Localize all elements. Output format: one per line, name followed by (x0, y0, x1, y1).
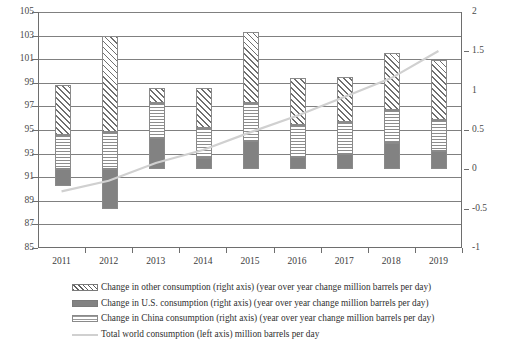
bar-segment-other (290, 78, 306, 125)
y-axis-right-tick-label: -1 (472, 243, 506, 253)
y-axis-left-tick-label: 85 (4, 243, 34, 253)
bar-segment-other (384, 53, 400, 110)
bar-segment-us (196, 158, 212, 170)
y-axis-left-tick-label: 95 (4, 125, 34, 135)
bar-segment-other (196, 88, 212, 128)
x-axis-tick-label: 2011 (37, 256, 87, 267)
bar-segment-other (102, 36, 118, 133)
y-axis-left-tick-label: 105 (4, 7, 34, 17)
x-axis-tick-label: 2013 (131, 256, 181, 267)
plot-area (38, 12, 462, 248)
bar-segment-other (149, 88, 165, 103)
gridline (39, 224, 461, 225)
bar-segment-china (290, 125, 306, 156)
y-axis-left-tick-mark (32, 59, 38, 60)
y-axis-left-tick-mark (32, 248, 38, 249)
y-axis-left-tick-label: 89 (4, 196, 34, 206)
bar-segment-us (243, 141, 259, 169)
bar-segment-china (243, 103, 259, 141)
y-axis-left-tick-mark (32, 154, 38, 155)
line-swatch (72, 331, 98, 338)
y-axis-right-tick-mark (464, 209, 469, 210)
legend-item-label: Change in U.S. consumption (right axis) … (101, 298, 429, 309)
y-axis-left-tick-mark (32, 106, 38, 107)
bar-segment-china (102, 132, 118, 169)
y-axis-right-tick-mark (464, 51, 469, 52)
bar-segment-china (55, 135, 71, 170)
solid-gray-swatch (72, 300, 98, 307)
bar-segment-us (102, 169, 118, 208)
legend-item-label: Change in other consumption (right axis)… (101, 282, 431, 293)
gridline (39, 12, 461, 13)
x-axis-tick-label: 2016 (272, 256, 322, 267)
y-axis-left-tick-label: 97 (4, 101, 34, 111)
y-axis-left-tick-mark (32, 83, 38, 84)
y-axis-right-tick-label: 0 (472, 164, 506, 174)
y-axis-left-tick-label: 91 (4, 172, 34, 182)
bar-segment-us (149, 138, 165, 169)
y-axis-left-tick-label: 103 (4, 31, 34, 41)
x-axis-tick-label: 2018 (366, 256, 416, 267)
x-axis-tick-mark (85, 248, 86, 253)
x-axis-tick-mark (274, 248, 275, 253)
bar-segment-us (384, 143, 400, 169)
y-axis-left-tick-mark (32, 224, 38, 225)
x-axis-tick-label: 2014 (178, 256, 228, 267)
y-axis-left-tick-label: 99 (4, 78, 34, 88)
x-axis-tick-mark (368, 248, 369, 253)
y-axis-right-tick-label: 2 (472, 7, 506, 17)
bar-segment-china (337, 122, 353, 153)
x-axis-tick-mark (132, 248, 133, 253)
legend-item: Change in U.S. consumption (right axis) … (72, 296, 502, 312)
x-axis-tick-mark (462, 248, 463, 253)
y-axis-right-tick-label: 1 (472, 86, 506, 96)
y-axis-right-tick-mark (464, 169, 469, 170)
y-axis-right-tick-mark (464, 130, 469, 131)
legend-item: Total world consumption (left axis) mill… (72, 327, 502, 343)
y-axis-left-tick-label: 93 (4, 149, 34, 159)
chart-legend: Change in other consumption (right axis)… (72, 280, 502, 342)
bar-segment-china (149, 103, 165, 138)
y-axis-right-tick-label: -0.5 (472, 204, 506, 214)
y-axis-right-tick-label: 1.5 (472, 46, 506, 56)
y-axis-left-tick-mark (32, 12, 38, 13)
horizontal-lines-swatch (72, 315, 98, 322)
legend-item: Change in China consumption (right axis)… (72, 311, 502, 327)
bar-segment-china (196, 128, 212, 158)
bar-segment-other (431, 60, 447, 120)
x-axis-tick-mark (179, 248, 180, 253)
x-axis-tick-mark (226, 248, 227, 253)
y-axis-left-tick-mark (32, 36, 38, 37)
x-axis-tick-mark (415, 248, 416, 253)
y-axis-left-tick-mark (32, 177, 38, 178)
y-axis-left-tick-mark (32, 130, 38, 131)
bar-segment-us (337, 154, 353, 170)
bar-segment-us (55, 169, 71, 186)
y-axis-left-tick-label: 87 (4, 219, 34, 229)
y-axis-left-tick-mark (32, 201, 38, 202)
legend-item-label: Change in China consumption (right axis)… (101, 313, 434, 324)
bar-segment-other (55, 85, 71, 135)
y-axis-right-tick-label: 0.5 (472, 125, 506, 135)
x-axis-tick-label: 2019 (413, 256, 463, 267)
diagonal-hatch-swatch (72, 284, 98, 291)
x-axis-tick-label: 2012 (84, 256, 134, 267)
x-axis-tick-label: 2015 (225, 256, 275, 267)
bar-segment-china (384, 110, 400, 144)
oil-consumption-chart: 105103101999795939189878521.510.50-0.5-1… (0, 0, 510, 361)
x-axis-tick-label: 2017 (319, 256, 369, 267)
legend-item-label: Total world consumption (left axis) mill… (101, 329, 319, 340)
bar-segment-other (243, 32, 259, 104)
bar-segment-us (290, 157, 306, 170)
y-axis-left-tick-label: 101 (4, 54, 34, 64)
bar-segment-us (431, 151, 447, 169)
bar-segment-other (337, 77, 353, 123)
bar-segment-china (431, 120, 447, 151)
x-axis-tick-mark (321, 248, 322, 253)
legend-item: Change in other consumption (right axis)… (72, 280, 502, 296)
